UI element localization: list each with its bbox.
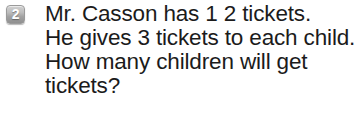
problem-text-line-2: He gives 3 tickets to each child. (45, 26, 359, 50)
question-number-label: 2 (12, 7, 20, 21)
problem-text-line-1: Mr. Casson has 1 2 tickets. (45, 2, 359, 26)
question-screenshot: 2 Mr. Casson has 1 2 tickets. He gives 3… (0, 0, 359, 114)
problem-text-block: Mr. Casson has 1 2 tickets. He gives 3 t… (45, 2, 359, 98)
problem-text-line-3: How many children will get (45, 50, 359, 74)
problem-text-line-4: tickets? (45, 74, 359, 98)
question-number-badge: 2 (6, 5, 25, 24)
